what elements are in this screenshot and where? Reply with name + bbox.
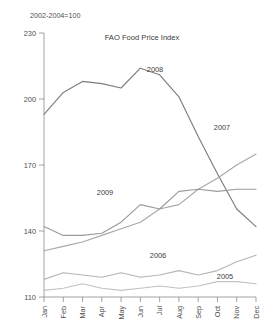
y-tick-label-170: 170 [24,161,36,170]
x-tick-label-may: May [117,306,126,320]
x-tick-label-oct: Oct [213,306,222,317]
x-tick-label-apr: Apr [97,305,106,317]
x-tick-label-sep: Sep [194,306,203,319]
x-tick-label-dec: Dec [252,306,261,319]
y-tick-label-140: 140 [24,227,36,236]
fao-food-price-index-chart: 2002-2004=100 FAO Food Price Index 230 2… [0,0,264,332]
y-tick-label-230: 230 [24,29,36,38]
series-label-2008: 2008 [147,65,163,74]
chart-container: 2002-2004=100 FAO Food Price Index 230 2… [0,0,264,332]
series-label-2005: 2005 [217,272,233,281]
series-label-2006: 2006 [150,251,166,260]
x-tick-label-feb: Feb [59,306,68,318]
x-tick-label-jan: Jan [40,306,49,318]
x-tick-label-jul: Jul [155,306,164,316]
chart-background [0,0,264,332]
x-tick-label-aug: Aug [175,306,184,319]
series-label-2007: 2007 [214,123,230,132]
chart-title: FAO Food Price Index [105,33,180,42]
series-label-2009: 2009 [97,188,113,197]
chart-subtitle: 2002-2004=100 [30,11,81,20]
y-tick-label-200: 200 [24,95,36,104]
y-tick-label-110: 110 [24,293,36,302]
x-tick-label-jun: Jun [136,306,145,318]
x-tick-label-nov: Nov [232,306,241,319]
x-tick-label-mar: Mar [78,305,87,318]
